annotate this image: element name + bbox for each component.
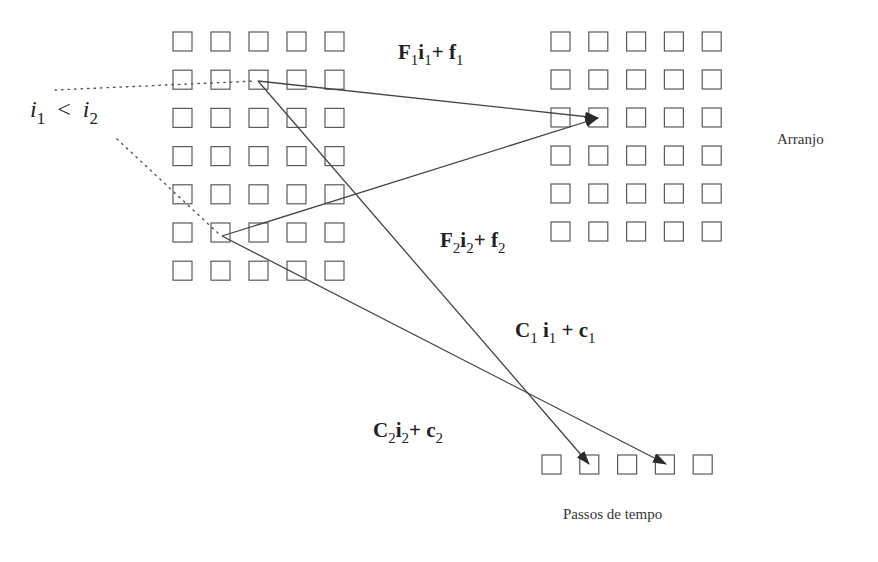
array-cell [627,32,646,51]
iteration-cell [173,32,192,51]
arrow-i2-to-array [222,118,598,236]
iteration-cell [173,223,192,242]
array-cell [627,108,646,127]
iteration-cell [249,261,268,280]
iteration-cell [249,32,268,51]
array-cell [551,70,570,89]
array-cell [551,108,570,127]
array-cell [702,146,721,165]
formula-f2: F2i2+ f2 [440,228,505,257]
array-cell [702,70,721,89]
iteration-cell [211,261,230,280]
array-cell [551,222,570,241]
iteration-cell [211,32,230,51]
iteration-cell [325,70,344,89]
iteration-cell [211,147,230,166]
time-steps-label: Passos de tempo [563,506,662,523]
array-cell [664,222,683,241]
iteration-cell [287,32,306,51]
array-cell [589,222,608,241]
iteration-cell [287,185,306,204]
array-cell [702,32,721,51]
array-cell [664,70,683,89]
arrow-i1-to-time [258,81,589,464]
formula-f1: F1i1+ f1 [398,40,463,69]
iteration-cell [173,261,192,280]
array-cell [551,32,570,51]
iteration-cell [325,223,344,242]
time-step-cell [618,455,637,474]
sub-2: 2 [89,109,98,128]
diagram-canvas [0,0,878,562]
time-step-cell [580,455,599,474]
array-grid [551,32,721,241]
iteration-cell [325,261,344,280]
iteration-cell [325,32,344,51]
time-step-cell [655,455,674,474]
iteration-cell [211,70,230,89]
iteration-cell [173,147,192,166]
array-cell [589,32,608,51]
iteration-cell [249,185,268,204]
sub-1: 1 [37,109,46,128]
array-cell [627,222,646,241]
time-step-cell [693,455,712,474]
iteration-cell [287,223,306,242]
array-cell [627,184,646,203]
iteration-cell [173,70,192,89]
arrow-i2-to-time [222,236,666,464]
array-cell [664,146,683,165]
array-cell [551,146,570,165]
formula-c1: C1 i1 + c1 [515,318,596,347]
array-cell [551,184,570,203]
array-cell [589,70,608,89]
iteration-space-grid [173,32,344,280]
array-cell [702,108,721,127]
iteration-cell [173,185,192,204]
iteration-cell [249,147,268,166]
array-cell [627,70,646,89]
iteration-cell [173,108,192,127]
array-cell [702,222,721,241]
array-cell [589,146,608,165]
dotted-line-i2 [117,139,220,235]
array-label: Arranjo [777,131,824,148]
iteration-cell [211,108,230,127]
var-i1: i [30,96,37,122]
iteration-cell [325,108,344,127]
iteration-cell [249,108,268,127]
time-steps-row [542,455,712,474]
inequality-label: i1<i2 [30,96,98,129]
array-cell [589,184,608,203]
iteration-cell [249,70,268,89]
array-cell [627,146,646,165]
array-cell [664,108,683,127]
iteration-cell [249,223,268,242]
formula-c2: C2i2+ c2 [373,418,443,447]
array-cell [664,32,683,51]
array-cell [702,184,721,203]
iteration-cell [211,185,230,204]
time-step-cell [542,455,561,474]
iteration-cell [287,147,306,166]
array-cell [664,184,683,203]
less-than-op: < [57,96,71,122]
arrow-i1-to-array [258,81,598,118]
